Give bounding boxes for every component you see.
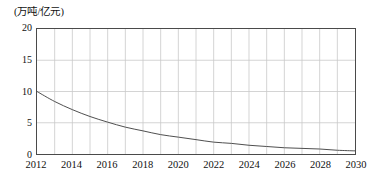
x-tick-label: 2014: [61, 159, 82, 170]
x-axis-ticks: 2012201420162018202020222024202620282030: [0, 0, 379, 183]
x-tick-label: 2030: [346, 159, 367, 170]
x-tick-label: 2016: [97, 159, 118, 170]
x-tick-label: 2026: [274, 159, 295, 170]
x-tick-label: 2020: [168, 159, 189, 170]
x-tick-label: 2022: [203, 159, 224, 170]
x-tick-label: 2024: [239, 159, 260, 170]
x-tick-label: 2018: [132, 159, 153, 170]
x-tick-label: 2028: [310, 159, 331, 170]
chart-figure: (万吨/亿元) 05101520 20122014201620182020202…: [0, 0, 379, 183]
x-tick-label: 2012: [26, 159, 47, 170]
